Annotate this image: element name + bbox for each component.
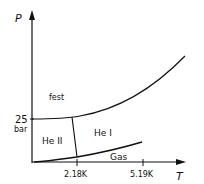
y-axis-arrow-icon	[29, 10, 35, 20]
y-axis-label: P	[15, 12, 22, 25]
x-tick-label-5-19k: 5.19K	[130, 170, 154, 179]
x-axis-label: T	[176, 170, 184, 183]
helium-phase-diagram: P T 25 bar 2.18K 5.19K fest He II He I G…	[0, 0, 204, 184]
melting-curve	[32, 56, 185, 119]
y-tick-value: 25	[15, 114, 28, 125]
lambda-line	[72, 117, 77, 157]
x-tick-label-2-18k: 2.18K	[64, 170, 88, 179]
region-he-i-label: He I	[94, 128, 112, 138]
region-gas-label: Gas	[110, 152, 127, 162]
y-axis	[29, 10, 35, 163]
region-he-ii-label: He II	[42, 136, 62, 146]
x-axis-arrow-icon	[176, 159, 186, 165]
y-tick-unit: bar	[14, 125, 28, 134]
region-solid-label: fest	[49, 93, 64, 102]
